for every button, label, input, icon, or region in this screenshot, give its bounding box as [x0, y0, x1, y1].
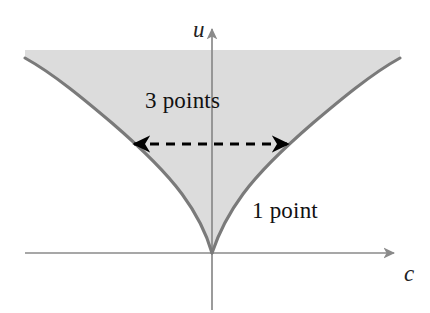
- cusp-catastrophe-figure: u c 3 points 1 point: [0, 0, 430, 313]
- figure-canvas: [0, 0, 430, 313]
- one-point-label: 1 point: [252, 199, 318, 222]
- three-points-label: 3 points: [145, 89, 220, 112]
- c-axis-label: c: [404, 262, 414, 285]
- u-axis-label: u: [193, 18, 205, 41]
